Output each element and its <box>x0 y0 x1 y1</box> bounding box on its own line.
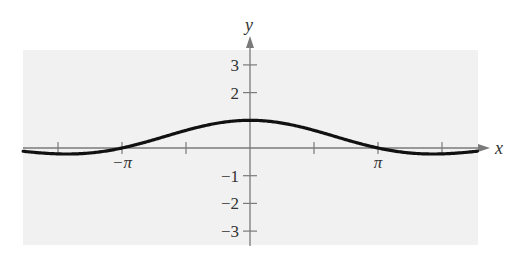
y-tick-label: 3 <box>231 56 240 75</box>
x-axis-arrow-icon <box>478 144 490 152</box>
x-tick-label: π <box>374 153 383 172</box>
y-tick-label: −3 <box>221 222 239 241</box>
y-tick-label: −2 <box>221 194 239 213</box>
x-tick-label: −π <box>112 153 132 172</box>
y-tick-label: −1 <box>221 167 239 186</box>
y-tick-label: 2 <box>231 84 240 103</box>
y-axis-label: y <box>243 15 253 35</box>
y-axis-arrow-icon <box>246 36 254 48</box>
chart: −ππ32−1−2−3 x y <box>0 0 513 256</box>
x-axis-label: x <box>494 138 503 158</box>
